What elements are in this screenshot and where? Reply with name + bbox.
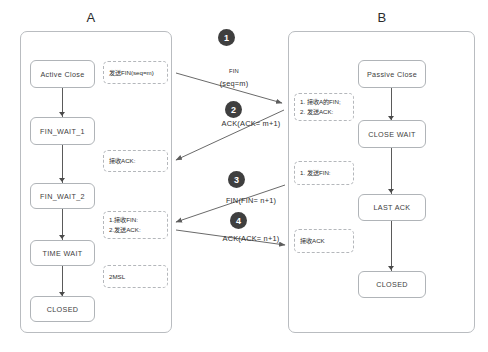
- note-b-send-fin[interactable]: 1. 发送FIN:: [294, 161, 354, 185]
- state-label: FIN_WAIT_1: [40, 127, 85, 136]
- msg-label-4: ACK(ACK= n+1): [198, 234, 304, 243]
- note-line: 2. 发送ACK:: [300, 107, 348, 117]
- state-box-b-passive-close[interactable]: Passive Close: [358, 60, 426, 88]
- flow-arrow-b-3: [388, 266, 394, 270]
- state-box-a-fin-wait-2[interactable]: FIN_WAIT_2: [30, 183, 95, 209]
- note-a-recv-ack[interactable]: 接收ACK:: [103, 150, 168, 172]
- state-box-a-time-wait[interactable]: TIME WAIT: [30, 240, 95, 266]
- note-a-send-fin[interactable]: 发送FIN(seq=m): [103, 61, 168, 84]
- state-label: FIN_WAIT_2: [40, 192, 85, 201]
- note-line: 1. 接收A的FIN;: [300, 97, 348, 107]
- note-line: 接收ACK:: [109, 156, 162, 166]
- state-label: Active Close: [40, 70, 84, 79]
- flow-arrow-a-3: [59, 235, 65, 239]
- msg-label-1-line1: FIN: [206, 68, 262, 74]
- flow-arrow-a-1: [59, 112, 65, 116]
- state-box-b-last-ack[interactable]: LAST ACK: [358, 194, 426, 221]
- msg-label-1-line2: (seq=m): [204, 79, 264, 88]
- msg-label-3: FIN(FIN= n+1): [201, 196, 301, 205]
- note-a-2msl[interactable]: 2MSL: [103, 265, 168, 288]
- state-label: CLOSE WAIT: [368, 130, 416, 139]
- note-line: 1. 发送FIN:: [300, 168, 348, 178]
- panel-title-a: A: [66, 10, 116, 25]
- note-line: 接收ACK: [300, 236, 348, 246]
- msg-label-2: ACK(ACK= m+1): [198, 119, 304, 128]
- step-number: 4: [236, 216, 241, 226]
- state-label: CLOSED: [376, 280, 408, 289]
- state-label: TIME WAIT: [42, 249, 82, 258]
- panel-title-b: B: [357, 10, 407, 25]
- note-line: 2MSL: [109, 272, 162, 282]
- state-box-a-active-close[interactable]: Active Close: [30, 60, 95, 88]
- flow-arrow-b-2: [388, 189, 394, 193]
- step-circle-1[interactable]: 1: [218, 29, 235, 46]
- note-line: 发送FIN(seq=m): [109, 68, 162, 78]
- step-circle-3[interactable]: 3: [228, 171, 245, 188]
- step-number: 1: [224, 33, 229, 43]
- note-line: 1.接收FIN:: [109, 215, 162, 225]
- state-label: CLOSED: [47, 305, 79, 314]
- state-box-a-fin-wait-1[interactable]: FIN_WAIT_1: [30, 117, 95, 145]
- step-number: 3: [234, 175, 239, 185]
- step-circle-4[interactable]: 4: [230, 212, 247, 229]
- state-box-b-closed[interactable]: CLOSED: [358, 271, 426, 298]
- arrow-fin-a-to-b: [176, 73, 282, 103]
- state-box-a-closed[interactable]: CLOSED: [30, 296, 95, 322]
- note-a-recv-fin-send-ack[interactable]: 1.接收FIN: 2.发送ACK:: [103, 211, 168, 239]
- state-label: Passive Close: [367, 70, 417, 79]
- note-line: 2.发送ACK:: [109, 225, 162, 235]
- step-number: 2: [231, 105, 236, 115]
- step-circle-2[interactable]: 2: [225, 101, 242, 118]
- state-box-b-close-wait[interactable]: CLOSE WAIT: [358, 120, 426, 148]
- flow-arrow-a-2: [59, 178, 65, 182]
- state-label: LAST ACK: [373, 203, 410, 212]
- note-b-recv-fin-send-ack[interactable]: 1. 接收A的FIN; 2. 发送ACK:: [294, 93, 354, 121]
